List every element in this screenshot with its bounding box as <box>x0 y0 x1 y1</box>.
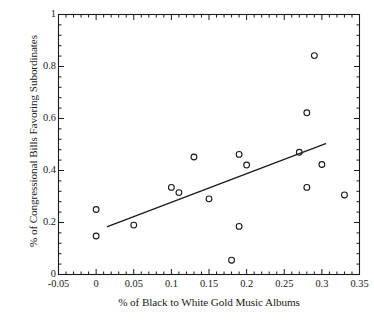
data-point <box>236 151 242 157</box>
data-point <box>131 222 137 228</box>
data-point <box>304 185 310 191</box>
trend-line <box>107 144 325 227</box>
axis-frame <box>59 15 360 275</box>
data-point <box>236 224 242 230</box>
plot-area <box>0 0 374 322</box>
scatter-chart-figure: % of Congressional Bills Favoring Subord… <box>0 0 374 322</box>
data-point <box>244 162 250 168</box>
data-points <box>93 53 347 263</box>
data-point <box>93 233 99 239</box>
axis-ticks <box>59 15 360 275</box>
data-point <box>304 110 310 116</box>
data-point <box>311 53 317 59</box>
data-point <box>342 192 348 198</box>
data-point <box>191 154 197 160</box>
data-point <box>319 162 325 168</box>
data-point <box>168 185 174 191</box>
data-point <box>93 207 99 213</box>
data-point <box>206 196 212 202</box>
data-point <box>176 190 182 196</box>
data-point <box>229 257 235 263</box>
